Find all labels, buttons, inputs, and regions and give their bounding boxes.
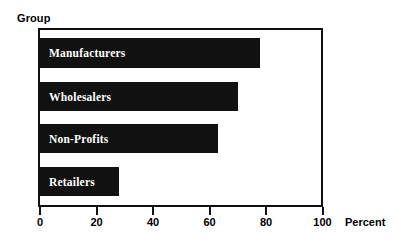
x-tick-mark [152,207,154,215]
x-tick-mark [39,207,41,215]
x-tick-mark [265,207,267,215]
x-tick-label: 100 [313,216,331,229]
x-tick-label: 60 [203,216,215,229]
x-tick-label: 0 [37,216,43,229]
x-tick-label: 20 [90,216,102,229]
x-tick-label: 40 [147,216,159,229]
x-tick-mark [322,207,324,215]
value-axis-title: Percent [345,216,385,229]
bar-chart: Group ManufacturersWholesalersNon-Profit… [0,0,397,245]
x-tick-label: 80 [260,216,272,229]
x-axis: 020406080100 [0,0,397,245]
x-tick-mark [96,207,98,215]
x-tick-mark [209,207,211,215]
